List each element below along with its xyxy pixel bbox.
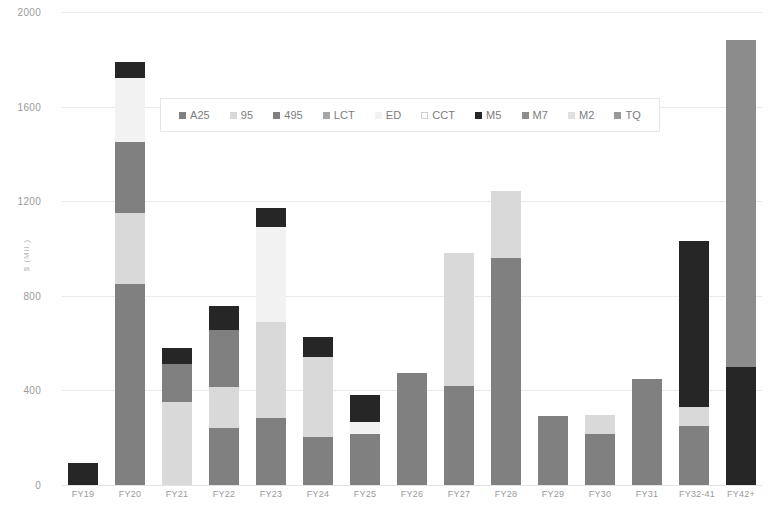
legend-item[interactable]: 495	[273, 109, 302, 121]
bar-segment[interactable]	[115, 213, 145, 284]
bar-segment[interactable]	[350, 434, 380, 485]
legend-item[interactable]: 95	[230, 109, 253, 121]
bar-stack	[162, 348, 192, 485]
legend-label: A25	[190, 109, 210, 121]
x-axis-tick-label: FY21	[162, 489, 192, 499]
bar-stack	[68, 463, 98, 485]
bar-segment[interactable]	[115, 62, 145, 79]
legend-item[interactable]: LCT	[323, 109, 355, 121]
bar-segment[interactable]	[679, 241, 709, 407]
x-axis-tick-label: FY32-41	[679, 489, 709, 499]
bar-stack	[397, 373, 427, 485]
bar-column[interactable]	[397, 12, 427, 485]
bar-segment[interactable]	[585, 415, 615, 434]
bar-segment[interactable]	[303, 337, 333, 357]
legend-item[interactable]: A25	[179, 109, 210, 121]
bar-segment[interactable]	[444, 253, 474, 385]
bar-segment[interactable]	[115, 142, 145, 213]
grid-line	[62, 485, 762, 486]
bar-column[interactable]	[679, 12, 709, 485]
legend-label: M2	[579, 109, 594, 121]
y-axis-tick-label: 1600	[0, 101, 41, 112]
bar-column[interactable]	[632, 12, 662, 485]
bar-segment[interactable]	[303, 437, 333, 485]
bar-column[interactable]	[726, 12, 756, 485]
bar-segment[interactable]	[585, 434, 615, 485]
bar-segment[interactable]	[115, 284, 145, 485]
bar-stack	[679, 241, 709, 485]
bar-segment[interactable]	[209, 428, 239, 485]
legend-swatch-icon	[614, 112, 621, 119]
y-axis-tick-label: 400	[0, 385, 41, 396]
bar-segment[interactable]	[726, 40, 756, 366]
legend-item[interactable]: CCT	[421, 109, 455, 121]
y-axis-title: $ (Mil.)	[22, 239, 31, 271]
bar-segment[interactable]	[350, 422, 380, 434]
legend-label: 95	[241, 109, 253, 121]
bar-column[interactable]	[256, 12, 286, 485]
bar-segment[interactable]	[397, 373, 427, 485]
bar-column[interactable]	[585, 12, 615, 485]
legend-label: ED	[386, 109, 401, 121]
bar-stack	[538, 416, 568, 485]
legend-item[interactable]: TQ	[614, 109, 640, 121]
x-axis-tick-label: FY22	[209, 489, 239, 499]
bar-segment[interactable]	[350, 395, 380, 422]
legend-swatch-icon	[323, 112, 330, 119]
bar-column[interactable]	[68, 12, 98, 485]
bar-segment[interactable]	[209, 387, 239, 428]
bar-column[interactable]	[209, 12, 239, 485]
y-axis-tick-label: 2000	[0, 7, 41, 18]
stacked-bar-chart: $ (Mil.) 2000160012008004000 FY19FY20FY2…	[0, 0, 777, 510]
bar-segment[interactable]	[256, 418, 286, 485]
bar-segment[interactable]	[209, 306, 239, 330]
legend-label: LCT	[334, 109, 355, 121]
bar-segment[interactable]	[679, 426, 709, 485]
bar-segment[interactable]	[538, 416, 568, 485]
bar-column[interactable]	[350, 12, 380, 485]
bar-column[interactable]	[491, 12, 521, 485]
bar-column[interactable]	[115, 12, 145, 485]
x-axis-tick-label: FY31	[632, 489, 662, 499]
bar-column[interactable]	[162, 12, 192, 485]
bar-segment[interactable]	[303, 357, 333, 436]
x-axis-tick-label: FY28	[491, 489, 521, 499]
bar-column[interactable]	[303, 12, 333, 485]
legend-swatch-icon	[273, 112, 280, 119]
bar-stack	[350, 395, 380, 485]
x-axis-labels: FY19FY20FY21FY22FY23FY24FY25FY26FY27FY28…	[62, 489, 762, 499]
bar-segment[interactable]	[444, 386, 474, 485]
legend-label: TQ	[625, 109, 640, 121]
x-axis-tick-label: FY20	[115, 489, 145, 499]
legend-swatch-icon	[230, 112, 237, 119]
legend-item[interactable]: M5	[475, 109, 501, 121]
bar-column[interactable]	[444, 12, 474, 485]
bar-stack	[209, 306, 239, 485]
x-axis-tick-label: FY19	[68, 489, 98, 499]
legend-item[interactable]: M2	[568, 109, 594, 121]
bar-segment[interactable]	[256, 227, 286, 322]
bar-stack	[256, 208, 286, 485]
bar-segment[interactable]	[679, 407, 709, 426]
bar-stack	[444, 253, 474, 485]
bar-segment[interactable]	[115, 78, 145, 142]
bar-segment[interactable]	[162, 348, 192, 365]
y-axis-tick-label: 0	[0, 480, 41, 491]
bar-segment[interactable]	[491, 191, 521, 258]
bar-segment[interactable]	[162, 364, 192, 402]
bar-segment[interactable]	[726, 367, 756, 485]
bar-segment[interactable]	[68, 463, 98, 485]
bar-segment[interactable]	[162, 402, 192, 485]
bar-column[interactable]	[538, 12, 568, 485]
bar-segment[interactable]	[632, 379, 662, 485]
legend-item[interactable]: M7	[522, 109, 548, 121]
bar-segment[interactable]	[209, 330, 239, 387]
bar-segment[interactable]	[491, 258, 521, 485]
bar-stack	[303, 337, 333, 485]
legend-swatch-icon	[475, 112, 482, 119]
bar-segment[interactable]	[256, 322, 286, 418]
bar-segment[interactable]	[256, 208, 286, 227]
legend-label: CCT	[432, 109, 455, 121]
legend-item[interactable]: ED	[375, 109, 401, 121]
legend-label: 495	[284, 109, 302, 121]
